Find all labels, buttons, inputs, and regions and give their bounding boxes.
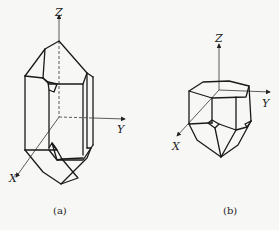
y-label-a: Y	[117, 123, 126, 136]
x-label-a: X	[8, 172, 18, 185]
panel-a: Z Y X (a)	[8, 6, 126, 216]
y-axis-hidden-a	[59, 117, 93, 118]
z-label-a: Z	[54, 6, 63, 19]
caption-a: (a)	[53, 205, 67, 216]
y-axis-a	[93, 118, 125, 119]
y-axis-b	[219, 90, 270, 92]
y-label-b: Y	[262, 97, 271, 110]
caption-b: (b)	[223, 205, 237, 216]
panel-b: Z Y X (b)	[171, 32, 271, 216]
x-axis-b	[177, 90, 219, 136]
axes-a	[16, 15, 125, 177]
x-label-b: X	[171, 140, 181, 153]
z-label-b: Z	[214, 32, 223, 45]
crystal-figure: Z Y X (a) Z Y	[0, 0, 279, 230]
crystal-b	[189, 81, 251, 157]
